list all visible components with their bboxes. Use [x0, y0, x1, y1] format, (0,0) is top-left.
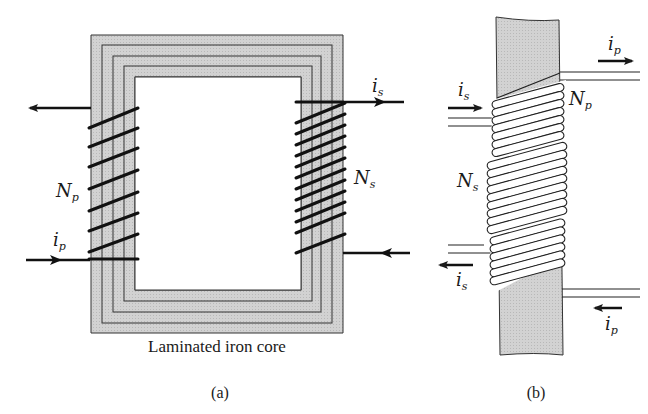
primary-current-out-label: ip [608, 33, 621, 57]
primary-current-in-label: ip [605, 313, 618, 337]
figure-a: Np Ns ip is Laminated iron core (a) [26, 35, 410, 402]
secondary-turns-label-b: Ns [456, 170, 479, 194]
coil-turns [486, 83, 567, 286]
figure-b: ip is Np Ns is ip (b) [440, 17, 640, 402]
core-label: Laminated iron core [148, 337, 286, 356]
primary-turns-label: Np [55, 180, 79, 204]
secondary-turns-label: Ns [353, 167, 376, 191]
caption-b: (b) [527, 384, 546, 402]
secondary-current-out-label: is [456, 269, 468, 293]
secondary-current-label: is [372, 75, 384, 99]
primary-current-label: ip [53, 229, 66, 253]
primary-turns-label-b: Np [568, 88, 592, 112]
caption-a: (a) [211, 384, 229, 402]
transformer-diagram: Np Ns ip is Laminated iron core (a) [0, 0, 648, 414]
secondary-current-in-label: is [458, 79, 470, 103]
